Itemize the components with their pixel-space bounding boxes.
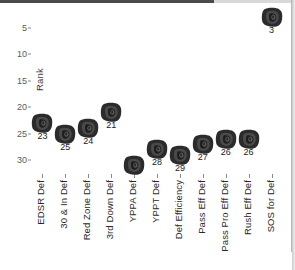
bulldog-logo-icon: [100, 102, 122, 122]
bulldog-logo-icon: [215, 129, 237, 149]
data-point-value-label: 24: [83, 136, 93, 146]
data-point: 28: [146, 139, 168, 159]
bulldog-logo-icon: [123, 155, 145, 175]
bulldog-logo-icon: [169, 145, 191, 165]
x-axis-category-text: Red Zone Def: [81, 180, 92, 240]
data-point: 23: [31, 113, 53, 133]
bulldog-logo-icon: [261, 7, 283, 27]
y-axis-tick-mark: [28, 54, 31, 55]
x-axis-category-text: 30 & In Def: [58, 180, 69, 229]
data-point: 27: [192, 134, 214, 154]
right-page-edge: [292, 0, 295, 270]
x-axis-tick-mark: [157, 174, 158, 178]
data-point-value-label: 21: [106, 120, 116, 130]
x-axis-category-text: YPPT Def: [150, 180, 161, 223]
y-axis-tick-label: 25: [17, 129, 27, 139]
data-point-value-label: 3: [269, 25, 274, 35]
x-axis-tick-mark: [65, 174, 66, 178]
chart-page: Rank 510152025302325242128292726263 EDSR…: [0, 0, 295, 270]
data-point-value-label: 26: [221, 147, 231, 157]
data-point-value-label: 25: [60, 142, 70, 152]
y-axis-tick-label: 15: [17, 76, 27, 86]
bulldog-logo-icon: [192, 134, 214, 154]
x-axis-category-text: Pass Eff Def: [196, 180, 207, 234]
x-axis-category-labels: EDSR Def30 & In DefRed Zone Def3rd Down …: [31, 180, 283, 266]
bulldog-logo-icon: [77, 118, 99, 138]
bulldog-logo-icon: [54, 124, 76, 144]
data-point-value-label: 23: [37, 131, 47, 141]
y-axis-tick-mark: [28, 107, 31, 108]
x-axis-category-text: Pass Pro Eff Def: [219, 180, 230, 252]
y-axis-tick-label: 10: [17, 49, 27, 59]
right-page-border: [291, 0, 292, 252]
data-point: 3: [261, 7, 283, 27]
data-point: 24: [77, 118, 99, 138]
x-axis-tick-mark: [226, 174, 227, 178]
data-point-value-label: 26: [244, 147, 254, 157]
x-axis-tick-mark: [111, 174, 112, 178]
x-axis-category-text: 3rd Down Def: [104, 180, 115, 239]
x-axis-tick-mark: [203, 174, 204, 178]
top-edge-strip-light: [214, 0, 295, 3]
bulldog-logo-icon: [238, 129, 260, 149]
data-point: 25: [54, 124, 76, 144]
data-point-value-label: 27: [198, 152, 208, 162]
y-axis-tick-mark: [28, 160, 31, 161]
x-axis-tick-mark: [88, 174, 89, 178]
top-edge-strip: [0, 0, 214, 3]
y-axis-tick-mark: [28, 28, 31, 29]
y-axis-tick-mark: [28, 133, 31, 134]
y-axis-tick-label: 30: [17, 155, 27, 165]
x-axis-category-text: EDSR Def: [35, 180, 46, 225]
data-point: 26: [215, 129, 237, 149]
data-point-value-label: 29: [175, 163, 185, 173]
data-point-value-label: 28: [152, 157, 162, 167]
data-point: [123, 155, 145, 175]
bulldog-logo-icon: [31, 113, 53, 133]
bulldog-logo-icon: [146, 139, 168, 159]
x-axis-category-text: Rush Eff Def: [242, 180, 253, 235]
y-axis-tick-label: 20: [17, 102, 27, 112]
data-point: 29: [169, 145, 191, 165]
x-axis-category-text: YPPA Def: [127, 180, 138, 222]
x-axis-category-text: Def Efficiency: [173, 180, 184, 239]
x-axis-category-text: SOS for Def: [265, 180, 276, 232]
x-axis-tick-mark: [249, 174, 250, 178]
x-axis-tick-mark: [42, 174, 43, 178]
y-axis-title: Rank: [34, 50, 45, 110]
data-point: 26: [238, 129, 260, 149]
x-axis-tick-mark: [180, 174, 181, 178]
y-axis-tick-mark: [28, 80, 31, 81]
y-axis-tick-label: 5: [22, 23, 27, 33]
plot-area: Rank 510152025302325242128292726263: [31, 4, 283, 174]
data-point: 21: [100, 102, 122, 122]
x-axis-tick-mark: [272, 174, 273, 178]
